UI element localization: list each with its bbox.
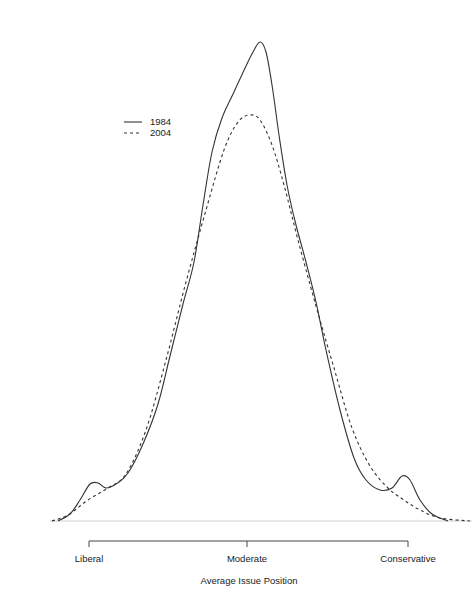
tick-label-conservative: Conservative bbox=[380, 553, 435, 564]
series-1984-line bbox=[58, 42, 448, 521]
series-2004-line bbox=[52, 115, 470, 521]
tick-label-liberal: Liberal bbox=[75, 553, 104, 564]
x-axis: Liberal Moderate Conservative Average Is… bbox=[75, 541, 436, 586]
x-axis-title: Average Issue Position bbox=[201, 575, 298, 586]
legend-label-2004: 2004 bbox=[150, 127, 171, 138]
legend: 1984 2004 bbox=[124, 116, 171, 138]
tick-label-moderate: Moderate bbox=[227, 553, 267, 564]
density-chart: Liberal Moderate Conservative Average Is… bbox=[0, 0, 474, 603]
legend-label-1984: 1984 bbox=[150, 116, 171, 127]
